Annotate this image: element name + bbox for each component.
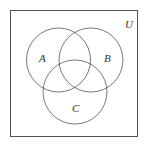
universe-label: U [125, 18, 134, 30]
venn-diagram: U A B C [0, 0, 148, 148]
set-a-circle [27, 28, 91, 92]
set-c-circle [43, 60, 107, 124]
set-b-label: B [104, 52, 111, 64]
set-c-label: C [72, 102, 80, 114]
set-b-circle [59, 28, 123, 92]
set-a-label: A [38, 52, 46, 64]
